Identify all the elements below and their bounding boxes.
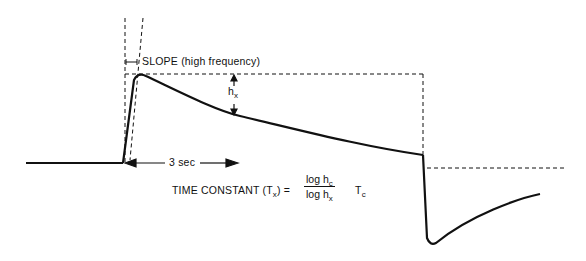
num-sub: c <box>329 179 333 188</box>
den-main: log h <box>306 188 329 200</box>
tc-prefix: TIME CONSTANT (T <box>172 184 273 196</box>
hx-label: hx <box>228 85 238 97</box>
den-sub: x <box>329 194 333 203</box>
slope-label: SLOPE (high frequency) <box>142 55 260 67</box>
log-fraction: log hc log hx <box>304 173 335 200</box>
slope-bracket <box>126 59 137 65</box>
guide-lines <box>125 18 565 168</box>
fraction-numerator: log hc <box>304 173 335 185</box>
num-main: log h <box>306 173 329 185</box>
tc-suffix: ) = <box>277 184 290 196</box>
hx-sub: x <box>234 91 238 100</box>
tc-term: Tc <box>355 184 366 196</box>
tc-prefix-sub: x <box>273 190 277 199</box>
waveform-diagram <box>0 0 586 261</box>
fraction-denominator: log hx <box>304 188 335 200</box>
tc-sub: c <box>362 190 366 199</box>
tc-main: T <box>355 184 362 196</box>
duration-label: 3 sec <box>169 156 195 168</box>
time-constant-label: TIME CONSTANT (Tx) = <box>172 184 290 196</box>
undershoot-curve <box>423 155 540 244</box>
response-curve <box>123 75 423 163</box>
